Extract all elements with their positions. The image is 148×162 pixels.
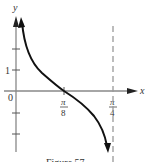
curve-top-arrow-icon: [18, 17, 25, 28]
y-tick-label-1: 1: [5, 65, 10, 76]
y-axis-arrow-icon: [13, 16, 19, 27]
cotangent-curve: [22, 22, 107, 146]
curve-bottom-arrow-icon: [104, 143, 111, 153]
y-axis-label: y: [12, 2, 18, 13]
x-axis-label: x: [139, 85, 145, 96]
x-axis-arrow-icon: [127, 88, 138, 94]
origin-label: 0: [8, 92, 13, 103]
y-axis: y 1: [5, 2, 20, 152]
figure-caption: Figure 57: [46, 157, 85, 162]
pi8-numerator: π: [61, 97, 66, 107]
pi8-denominator: 8: [61, 108, 66, 118]
x-axis: x 0 π 8 π 4: [4, 85, 145, 118]
cotangent-graph: y 1 x 0 π 8 π 4 Figure 57: [0, 0, 148, 162]
